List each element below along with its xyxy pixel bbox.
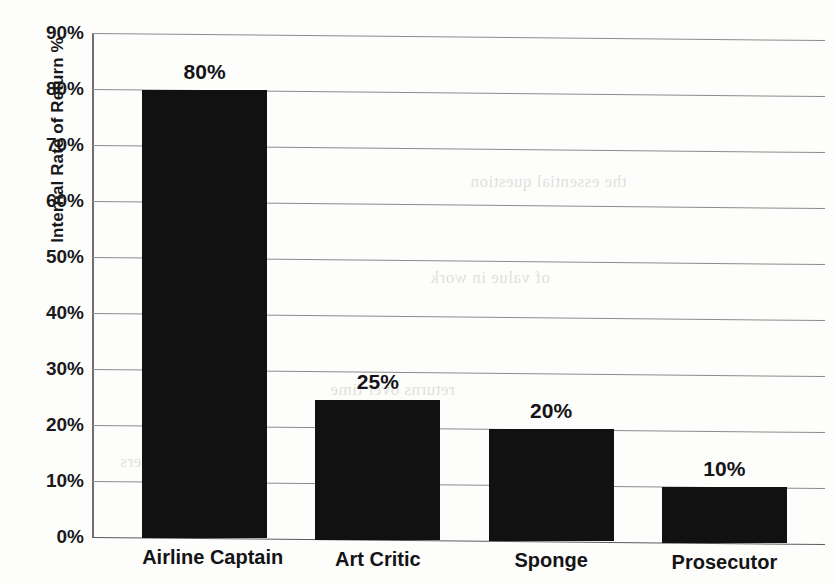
- bar: [315, 400, 440, 540]
- bar: [489, 429, 614, 541]
- y-axis-tick-label: 10%: [28, 470, 84, 492]
- y-axis-tick-labels: 0%10%20%30%40%50%60%70%80%90%: [28, 0, 84, 585]
- bar-value-label: 20%: [489, 399, 614, 423]
- plot-area: 80%25%20%10%: [92, 33, 825, 537]
- bar: [142, 90, 267, 538]
- x-axis-category-label: Sponge: [489, 549, 614, 572]
- y-axis-tick-label: 70%: [28, 134, 84, 156]
- bar-value-label: 10%: [662, 457, 787, 481]
- x-axis-category-label: Airline Captain: [142, 546, 267, 569]
- gridline: [92, 33, 825, 41]
- y-axis-tick-label: 0%: [28, 526, 84, 548]
- y-axis-tick-label: 50%: [28, 246, 84, 268]
- y-axis-tick-label: 60%: [28, 190, 84, 212]
- bar: [662, 487, 787, 543]
- y-axis-tick-label: 80%: [28, 78, 84, 100]
- y-axis-tick-label: 20%: [28, 414, 84, 436]
- y-axis-line: [92, 33, 94, 537]
- bar-value-label: 25%: [315, 370, 440, 394]
- y-axis-tick-label: 40%: [28, 302, 84, 324]
- x-axis-category-label: Prosecutor: [662, 551, 787, 574]
- y-axis-tick-label: 90%: [28, 22, 84, 44]
- bar-value-label: 80%: [142, 60, 267, 84]
- y-axis-tick-label: 30%: [28, 358, 84, 380]
- chart-page: the essential question of value in work …: [0, 0, 834, 585]
- x-axis-category-label: Art Critic: [315, 548, 440, 571]
